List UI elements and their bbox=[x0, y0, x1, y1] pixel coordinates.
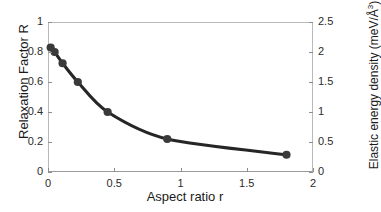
x-axis-tick-label: 1.5 bbox=[232, 178, 262, 189]
y-axis-right-title-suffix: ) bbox=[367, 1, 381, 5]
x-axis-tick-mark bbox=[247, 168, 248, 172]
y-axis-left-tick-mark bbox=[48, 82, 52, 83]
y-axis-right-tick-label: 1.5 bbox=[318, 76, 344, 87]
y-axis-right-tick-mark bbox=[309, 142, 313, 143]
angstrom-unit: Å bbox=[367, 9, 381, 17]
data-point-marker bbox=[163, 135, 171, 143]
y-axis-right-tick-mark bbox=[309, 172, 313, 173]
data-point-marker bbox=[74, 78, 82, 86]
y-axis-left-title: Relaxation Factor R bbox=[16, 7, 31, 157]
x-axis-tick-mark bbox=[313, 168, 314, 172]
x-axis-tick-mark bbox=[181, 168, 182, 172]
y-axis-right-tick-label: 1 bbox=[318, 106, 344, 117]
y-axis-right-tick-label: 2 bbox=[318, 46, 344, 57]
data-point-marker bbox=[58, 59, 66, 67]
y-axis-right-tick-label: 0.5 bbox=[318, 136, 344, 147]
x-axis-tick-mark bbox=[114, 168, 115, 172]
angstrom-exponent: 3 bbox=[366, 5, 375, 9]
y-axis-right-tick-mark bbox=[309, 112, 313, 113]
y-axis-left-tick-mark bbox=[48, 22, 52, 23]
x-axis-tick-label: 1 bbox=[166, 178, 196, 189]
x-axis-tick-label: 0 bbox=[33, 178, 63, 189]
y-axis-left-tick-label: 0 bbox=[17, 166, 43, 177]
x-axis-tick-mark bbox=[48, 168, 49, 172]
x-axis-title: Aspect ratio r bbox=[100, 189, 270, 204]
data-series-layer bbox=[48, 22, 313, 172]
y-axis-right-tick-mark bbox=[309, 52, 313, 53]
y-axis-right-title-prefix: Elastic energy density (meV/ bbox=[367, 17, 381, 169]
y-axis-left-tick-mark bbox=[48, 112, 52, 113]
y-axis-right-tick-mark bbox=[309, 22, 313, 23]
data-point-marker bbox=[282, 151, 290, 159]
y-axis-right-tick-label: 2.5 bbox=[318, 16, 344, 27]
y-axis-right-tick-label: 0 bbox=[318, 166, 344, 177]
y-axis-left-tick-mark bbox=[48, 52, 52, 53]
y-axis-right-tick-mark bbox=[309, 82, 313, 83]
y-axis-right-title: Elastic energy density (meV/Å3) bbox=[367, 0, 381, 178]
x-axis-tick-label: 0.5 bbox=[99, 178, 129, 189]
y-axis-left-tick-mark bbox=[48, 142, 52, 143]
data-point-marker bbox=[104, 108, 112, 116]
data-point-markers bbox=[47, 43, 291, 158]
x-axis-tick-label: 2 bbox=[298, 178, 328, 189]
y-axis-left-tick-mark bbox=[48, 172, 52, 173]
